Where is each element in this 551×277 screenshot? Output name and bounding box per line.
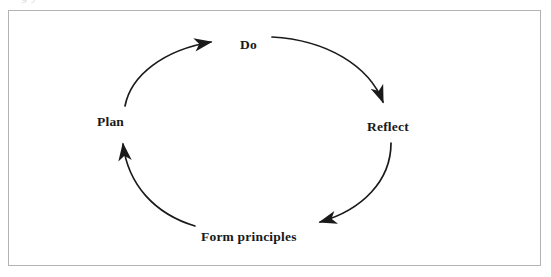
scan-edge-text-artifact: g y xyxy=(22,0,38,3)
node-label-plan: Plan xyxy=(94,114,127,130)
cycle-diagram xyxy=(9,11,540,265)
node-label-do: Do xyxy=(237,37,260,53)
arrow-reflect-to-form xyxy=(320,143,391,222)
figure-frame: Do Reflect Form principles Plan xyxy=(8,10,541,266)
node-label-reflect: Reflect xyxy=(364,119,412,135)
arrow-do-to-reflect xyxy=(272,37,383,102)
arrow-form-to-plan xyxy=(123,144,195,226)
node-label-form-principles: Form principles xyxy=(198,229,300,245)
arrow-plan-to-do xyxy=(125,42,211,106)
